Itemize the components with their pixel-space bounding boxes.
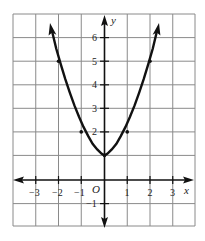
y-tick-label-3: 3 <box>92 103 97 114</box>
y-tick-label-4: 4 <box>92 79 97 90</box>
origin-label: O <box>92 183 100 195</box>
x-tick-label-neg2: −2 <box>52 187 63 198</box>
x-axis <box>13 176 194 184</box>
y-tick-label-2: 2 <box>92 126 97 137</box>
y-tick-label-neg1: −1 <box>86 198 97 209</box>
y-tick-label-5: 5 <box>92 56 97 67</box>
x-tick-label-3: 3 <box>170 187 175 198</box>
x-tick-label-1: 1 <box>125 187 130 198</box>
x-axis-label: x <box>183 184 189 196</box>
x-tick-label-neg1: −1 <box>74 187 85 198</box>
y-axis <box>100 15 109 228</box>
x-tick-label-2: 2 <box>148 187 153 198</box>
coordinate-plane: y x O −3 −2 −1 1 2 3 6 5 4 3 2 −1 <box>0 0 205 241</box>
y-axis-label: y <box>110 14 116 26</box>
y-tick-label-6: 6 <box>92 32 97 43</box>
x-tick-label-neg3: −3 <box>29 187 40 198</box>
